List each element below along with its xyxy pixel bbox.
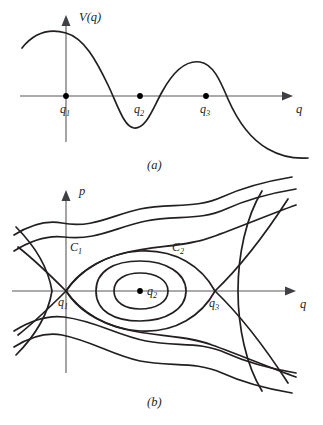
- trajectory-left-asymptote-upper: [18, 247, 66, 291]
- trajectory-outer-upper-2: [14, 189, 296, 251]
- physics-figure-potential-and-phase-portrait: V(q) q q1 q2 q3 (a) p: [0, 0, 323, 425]
- panel-a-q-axis-arrowhead: [282, 92, 293, 101]
- panel-a-label-q2: q2: [134, 103, 144, 115]
- panel-a-label-q3: q3: [200, 103, 210, 115]
- trajectory-separatrix-c2-lower: [66, 291, 215, 331]
- panel-b-label-q2: q2: [147, 285, 157, 297]
- panel-b-svg: [0, 175, 323, 425]
- trajectory-separatrix-c2-upper: [66, 251, 215, 291]
- panel-a-caption: (a): [147, 159, 162, 172]
- trajectory-outer-lower-2: [14, 317, 296, 373]
- point-marker-q2: [137, 93, 143, 99]
- panel-b-phase-portrait: p q q1 q2 q3 C1 C2 (b): [0, 175, 323, 425]
- panel-b-p-axis-arrowhead: [62, 190, 71, 201]
- panel-a-potential-plot: V(q) q q1 q2 q3 (a): [0, 0, 323, 180]
- panel-a-x-axis-label: q: [296, 103, 302, 116]
- point-marker-q2-center: [137, 288, 143, 294]
- panel-b-x-axis-label: q: [300, 298, 306, 311]
- panel-a-v-axis-arrowhead: [62, 15, 71, 26]
- panel-b-label-c1: C1: [70, 241, 82, 253]
- panel-b-caption: (b): [147, 396, 162, 409]
- panel-b-label-q3: q3: [209, 297, 219, 309]
- panel-b-y-axis-label: p: [79, 185, 85, 198]
- trajectory-outer-upper-1: [14, 177, 292, 235]
- point-marker-q1: [63, 93, 69, 99]
- panel-b-q-axis-arrowhead: [285, 287, 296, 296]
- panel-b-label-c2: C2: [172, 241, 184, 253]
- panel-a-label-q1: q1: [60, 103, 70, 115]
- panel-b-label-q1: q1: [58, 296, 68, 308]
- panel-a-y-axis-label: V(q): [79, 11, 101, 24]
- point-marker-q3: [203, 93, 209, 99]
- panel-a-svg: [0, 0, 323, 180]
